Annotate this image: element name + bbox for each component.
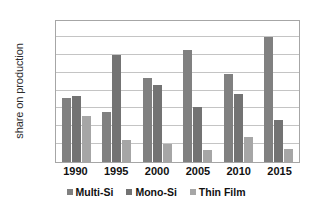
x-tick-label: 2015 <box>260 165 300 177</box>
x-tick-label: 1990 <box>55 165 95 177</box>
legend: Multi-SiMono-SiThin Film <box>0 186 312 198</box>
legend-item-mono-si[interactable]: Mono-Si <box>126 186 176 198</box>
x-axis-ticks: 199019952000200520102015 <box>55 165 300 177</box>
legend-swatch-icon <box>190 189 196 195</box>
y-axis-ticks: 0%10%20%30%40%50%60%70%80% <box>55 20 300 163</box>
bar-chart: share on production 0%10%20%30%40%50%60%… <box>0 0 312 211</box>
legend-swatch-icon <box>67 189 73 195</box>
legend-label: Mono-Si <box>135 186 176 198</box>
x-tick-label: 2000 <box>137 165 177 177</box>
x-tick-label: 2005 <box>178 165 218 177</box>
y-axis-title: share on production <box>13 21 25 161</box>
legend-label: Multi-Si <box>76 186 114 198</box>
legend-item-thin-film[interactable]: Thin Film <box>190 186 246 198</box>
legend-swatch-icon <box>126 189 132 195</box>
legend-label: Thin Film <box>199 186 246 198</box>
legend-item-multi-si[interactable]: Multi-Si <box>67 186 114 198</box>
x-tick-label: 1995 <box>96 165 136 177</box>
x-tick-label: 2010 <box>219 165 259 177</box>
